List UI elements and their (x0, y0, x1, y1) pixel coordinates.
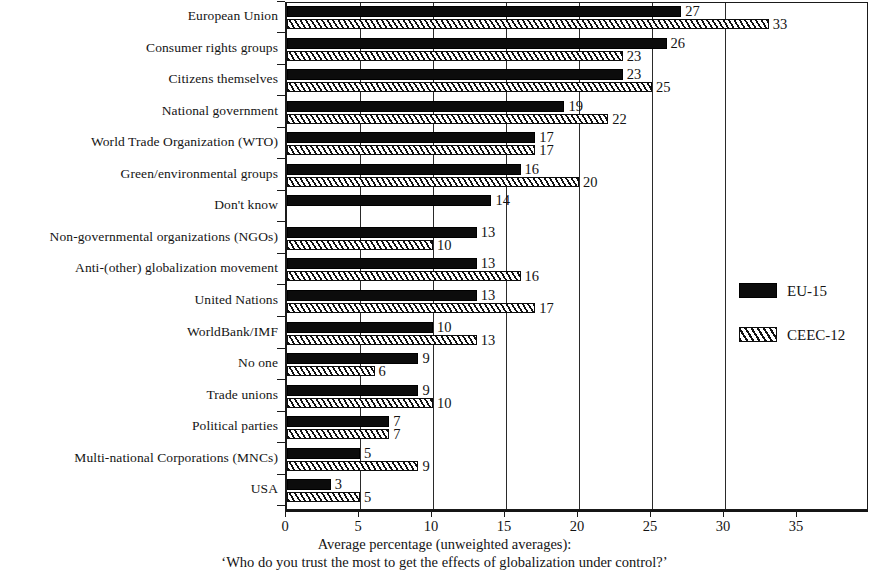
category-axis-labels: European UnionConsumer rights groupsCiti… (0, 0, 278, 510)
category-label: Political parties (0, 419, 278, 433)
bar-group: 1620 (287, 164, 867, 196)
bar-eu-15 (287, 195, 491, 206)
bar-ceec-12 (287, 303, 535, 313)
bar-value-label-eu-15: 27 (685, 4, 700, 18)
bar-value-label-eu-15: 9 (422, 351, 429, 365)
category-label: United Nations (0, 293, 278, 307)
bar-ceec-12 (287, 177, 579, 187)
bar-value-label-ceec-12: 10 (437, 396, 452, 410)
category-label: Non-governmental organizations (NGOs) (0, 230, 278, 244)
bar-value-label-eu-15: 10 (437, 320, 452, 334)
bar-value-label-eu-15: 16 (525, 162, 540, 176)
bar-group: 77 (287, 416, 867, 448)
y-tick (277, 190, 285, 191)
bar-eu-15 (287, 101, 564, 112)
solid-black-swatch-icon (739, 283, 777, 298)
y-tick (277, 158, 285, 159)
legend-label-eu-15: EU-15 (787, 280, 827, 302)
category-label: European Union (0, 9, 278, 23)
bar-value-label-ceec-12: 10 (437, 238, 452, 252)
bar-eu-15 (287, 416, 389, 427)
category-label: No one (0, 356, 278, 370)
x-tick-15 (504, 510, 505, 517)
bar-group: 2623 (287, 38, 867, 70)
bar-ceec-12 (287, 461, 418, 471)
bar-eu-15 (287, 448, 360, 459)
bar-eu-15 (287, 290, 477, 301)
bar-group: 1310 (287, 227, 867, 259)
bar-group: 59 (287, 448, 867, 480)
bar-group: 2733 (287, 6, 867, 38)
bar-value-label-ceec-12: 13 (481, 333, 496, 347)
y-tick (277, 284, 285, 285)
bar-chart: European UnionConsumer rights groupsCiti… (0, 0, 889, 573)
x-tick-25 (650, 510, 651, 517)
bar-ceec-12 (287, 271, 521, 281)
bar-value-label-ceec-12: 17 (539, 143, 554, 157)
bar-value-label-ceec-12: 20 (583, 175, 598, 189)
bar-group: 14 (287, 195, 867, 227)
bar-value-label-eu-15: 23 (627, 67, 642, 81)
bar-ceec-12 (287, 240, 433, 250)
bar-value-label-ceec-12: 23 (627, 49, 642, 63)
bar-group: 2325 (287, 69, 867, 101)
y-tick (277, 316, 285, 317)
bar-eu-15 (287, 38, 667, 49)
chart-subtitle: ‘Who do you trust the most to get the ef… (0, 554, 889, 571)
bar-eu-15 (287, 479, 331, 490)
bar-ceec-12 (287, 429, 389, 439)
bar-value-label-ceec-12: 7 (393, 427, 400, 441)
bar-eu-15 (287, 164, 521, 175)
bar-eu-15 (287, 353, 418, 364)
y-tick (277, 1, 285, 2)
bar-value-label-eu-15: 13 (481, 225, 496, 239)
bar-value-label-ceec-12: 22 (612, 112, 627, 126)
bar-ceec-12 (287, 398, 433, 408)
bar-eu-15 (287, 385, 418, 396)
bar-value-label-eu-15: 14 (495, 193, 510, 207)
x-tick-label-35: 35 (789, 518, 804, 535)
category-label: Anti-(other) globalization movement (0, 261, 278, 275)
bar-value-label-ceec-12: 5 (364, 490, 371, 504)
category-label: Green/environmental groups (0, 167, 278, 181)
x-tick-5 (358, 510, 359, 517)
bar-group: 1922 (287, 101, 867, 133)
category-label: Trade unions (0, 388, 278, 402)
bar-value-label-ceec-12: 17 (539, 301, 554, 315)
y-tick (277, 442, 285, 443)
bar-value-label-ceec-12: 6 (379, 364, 386, 378)
x-tick-20 (577, 510, 578, 517)
y-tick (277, 221, 285, 222)
bar-group: 35 (287, 479, 867, 511)
bar-value-label-ceec-12: 16 (525, 269, 540, 283)
y-tick (277, 127, 285, 128)
hatched-swatch-icon (739, 327, 777, 342)
bar-ceec-12 (287, 114, 608, 124)
category-label: WorldBank/IMF (0, 325, 278, 339)
x-tick-label-15: 15 (497, 518, 512, 535)
bar-value-label-ceec-12: 33 (773, 17, 788, 31)
bar-ceec-12 (287, 145, 535, 155)
bar-value-label-ceec-12: 9 (422, 459, 429, 473)
y-tick (277, 348, 285, 349)
bar-group: 910 (287, 385, 867, 417)
x-tick-label-25: 25 (643, 518, 658, 535)
bar-ceec-12 (287, 82, 652, 92)
bar-value-label-eu-15: 3 (335, 477, 342, 491)
x-tick-label-30: 30 (716, 518, 731, 535)
x-tick-label-20: 20 (570, 518, 585, 535)
bar-value-label-eu-15: 26 (671, 36, 686, 50)
x-tick-10 (431, 510, 432, 517)
x-tick-0 (285, 510, 286, 517)
category-label: Consumer rights groups (0, 41, 278, 55)
bar-value-label-eu-15: 13 (481, 288, 496, 302)
x-tick-label-5: 5 (354, 518, 361, 535)
y-tick (277, 95, 285, 96)
bar-group: 1717 (287, 132, 867, 164)
bar-eu-15 (287, 258, 477, 269)
x-axis-title: Average percentage (unweighted averages)… (0, 536, 889, 553)
category-label: Citizens themselves (0, 72, 278, 86)
y-tick (277, 505, 285, 506)
category-label: Don't know (0, 198, 278, 212)
bar-ceec-12 (287, 51, 623, 61)
